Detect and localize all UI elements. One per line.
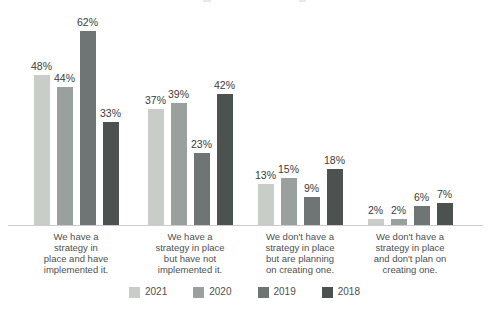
bar-2018 <box>217 94 233 225</box>
bar-value-label: 2% <box>368 205 383 216</box>
bar-2019 <box>80 31 96 225</box>
bar-2018 <box>327 169 343 225</box>
legend-label: 2019 <box>274 286 296 298</box>
bar-group: 48%44%62%33% <box>25 17 127 225</box>
bar-value-label: 48% <box>31 61 52 72</box>
bar-cell: 2% <box>391 205 407 225</box>
bar-group: 13%15%9%18% <box>249 155 351 225</box>
bar-value-label: 23% <box>191 139 212 150</box>
legend-label: 2021 <box>145 286 167 298</box>
bar-2020 <box>171 103 187 225</box>
bar-cell: 7% <box>437 189 453 225</box>
bar-value-label: 13% <box>255 170 276 181</box>
bar-cell: 13% <box>258 170 274 225</box>
category-label: We have a strategy in place and have imp… <box>25 231 127 275</box>
bar-cell: 15% <box>281 164 297 225</box>
legend-swatch-icon <box>193 287 204 298</box>
bar-cell: 33% <box>103 108 119 225</box>
bar-cell: 2% <box>368 205 384 225</box>
bar-2018 <box>103 122 119 225</box>
legend-item-2020: 2020 <box>193 286 231 298</box>
bar-cell: 44% <box>57 73 73 225</box>
bar-value-label: 9% <box>304 183 319 194</box>
bar-value-label: 39% <box>168 89 189 100</box>
legend-swatch-icon <box>129 287 140 298</box>
bar-value-label: 42% <box>214 80 235 91</box>
plot-area: 48%44%62%33%37%39%23%42%13%15%9%18%2%2%6… <box>0 0 489 319</box>
bar-2020 <box>391 219 407 225</box>
bar-2021 <box>258 184 274 225</box>
bar-value-label: 33% <box>100 108 121 119</box>
legend: 2021202020192018 <box>0 286 489 298</box>
bar-cell: 37% <box>148 95 164 225</box>
bar-2019 <box>304 197 320 225</box>
bar-cell: 62% <box>80 17 96 225</box>
category-label: We have a strategy in place but have not… <box>139 231 241 275</box>
bar-cell: 9% <box>304 183 320 225</box>
legend-item-2019: 2019 <box>258 286 296 298</box>
bar-2019 <box>414 206 430 225</box>
bar-cell: 18% <box>327 155 343 225</box>
legend-item-2021: 2021 <box>129 286 167 298</box>
bar-value-label: 18% <box>324 155 345 166</box>
legend-swatch-icon <box>322 287 333 298</box>
bar-2021 <box>34 75 50 225</box>
x-axis-line <box>8 225 483 226</box>
bar-group: 37%39%23%42% <box>139 80 241 225</box>
bar-2018 <box>437 203 453 225</box>
legend-label: 2018 <box>338 286 360 298</box>
bar-value-label: 44% <box>54 73 75 84</box>
bar-2021 <box>368 219 384 225</box>
bar-2020 <box>281 178 297 225</box>
legend-swatch-icon <box>258 287 269 298</box>
bar-value-label: 7% <box>437 189 452 200</box>
bar-value-label: 15% <box>278 164 299 175</box>
bar-cell: 23% <box>194 139 210 225</box>
bar-2019 <box>194 153 210 225</box>
bar-value-label: 6% <box>414 192 429 203</box>
category-label: We don't have a strategy in place and do… <box>359 231 461 275</box>
category-label: We don't have a strategy in place but ar… <box>249 231 351 275</box>
bar-2020 <box>57 87 73 225</box>
bar-chart: 48%44%62%33%37%39%23%42%13%15%9%18%2%2%6… <box>0 0 489 319</box>
bar-cell: 42% <box>217 80 233 225</box>
legend-label: 2020 <box>209 286 231 298</box>
bar-cell: 48% <box>34 61 50 225</box>
bar-cell: 39% <box>171 89 187 225</box>
bar-value-label: 62% <box>77 17 98 28</box>
bar-value-label: 2% <box>391 205 406 216</box>
bar-cell: 6% <box>414 192 430 225</box>
bar-group: 2%2%6%7% <box>359 189 461 225</box>
bar-value-label: 37% <box>145 95 166 106</box>
bar-2021 <box>148 109 164 225</box>
legend-item-2018: 2018 <box>322 286 360 298</box>
